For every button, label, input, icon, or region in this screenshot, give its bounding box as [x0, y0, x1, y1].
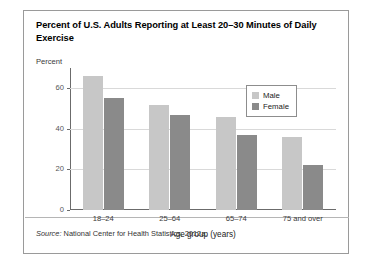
bar-male-1 [149, 105, 169, 210]
bar-female-1 [170, 115, 190, 210]
y-tick-mark [67, 88, 70, 89]
legend-item-female: Female [252, 101, 289, 112]
bar-female-3 [303, 165, 323, 210]
y-tick-label: 40 [40, 124, 64, 133]
legend-swatch-male-icon [252, 92, 259, 99]
legend-item-male: Male [252, 90, 289, 101]
y-tick-mark [67, 169, 70, 170]
bar-male-0 [83, 76, 103, 210]
y-tick-mark [67, 210, 70, 211]
x-tick-label: 75 and over [263, 214, 343, 223]
bar-male-3 [282, 137, 302, 210]
y-tick-label: 0 [40, 205, 64, 214]
source-text: National Center for Health Statistics, 2… [61, 229, 207, 238]
chart-title: Percent of U.S. Adults Reporting at Leas… [36, 19, 334, 44]
y-tick-label: 20 [40, 164, 64, 173]
source-prefix: Source: [36, 229, 61, 238]
bar-female-0 [104, 98, 124, 210]
figure-panel: Percent of U.S. Adults Reporting at Leas… [23, 10, 349, 254]
y-tick-label: 60 [40, 83, 64, 92]
legend-swatch-female-icon [252, 103, 259, 110]
source-note: Source: National Center for Health Stati… [36, 229, 207, 238]
chart-legend: Male Female [246, 85, 297, 117]
bar-male-2 [216, 117, 236, 210]
y-axis-caption: Percent [36, 57, 62, 66]
legend-label-female: Female [263, 102, 289, 111]
legend-label-male: Male [263, 91, 280, 100]
y-tick-mark [67, 129, 70, 130]
bar-female-2 [237, 135, 257, 210]
